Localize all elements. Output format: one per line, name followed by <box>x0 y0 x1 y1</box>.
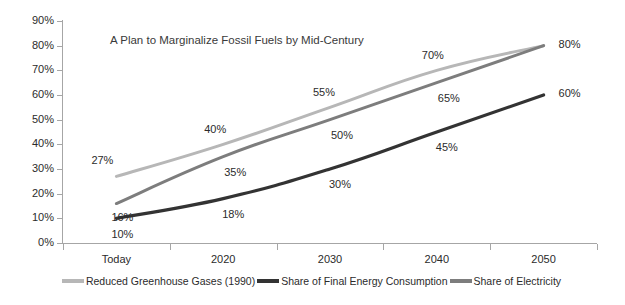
legend-item[interactable]: Reduced Greenhouse Gases (1990) <box>62 275 255 287</box>
legend-item[interactable]: Share of Electricity <box>450 275 562 287</box>
y-axis-tick <box>57 218 63 219</box>
x-axis-tick <box>597 244 598 250</box>
data-point-label: 70% <box>422 49 444 61</box>
y-axis-tick <box>57 120 63 121</box>
y-axis-label: 60% <box>12 89 54 100</box>
chart-title: A Plan to Marginalize Fossil Fuels by Mi… <box>110 33 364 47</box>
data-point-label: 60% <box>559 87 581 99</box>
y-axis-label: 70% <box>12 64 54 75</box>
legend-label: Share of Final Energy Consumption <box>281 275 447 287</box>
chart-legend: Reduced Greenhouse Gases (1990)Share of … <box>0 275 625 287</box>
data-point-label: 16% <box>111 211 133 223</box>
x-axis-tick <box>277 244 278 250</box>
y-axis-tick <box>57 95 63 96</box>
y-axis-tick <box>57 70 63 71</box>
y-axis-label: 0% <box>12 237 54 248</box>
data-point-label: 65% <box>438 92 460 104</box>
data-point-label: 18% <box>222 208 244 220</box>
y-axis-label: 40% <box>12 138 54 149</box>
y-axis-tick <box>57 169 63 170</box>
data-point-label: 55% <box>313 86 335 98</box>
y-axis-line <box>62 20 63 244</box>
y-axis-tick <box>57 194 63 195</box>
y-axis-label: 50% <box>12 114 54 125</box>
x-axis-label: 2020 <box>211 253 235 265</box>
x-axis-label: 2050 <box>531 253 555 265</box>
data-point-label: 30% <box>329 178 351 190</box>
y-axis-label: 20% <box>12 188 54 199</box>
x-axis-label: 2040 <box>425 253 449 265</box>
data-point-label: 27% <box>91 154 113 166</box>
y-axis-tick <box>57 46 63 47</box>
x-axis-tick <box>383 244 384 250</box>
legend-item[interactable]: Share of Final Energy Consumption <box>257 275 447 287</box>
y-axis-label: 10% <box>12 212 54 223</box>
series-line <box>116 46 543 177</box>
line-chart: A Plan to Marginalize Fossil Fuels by Mi… <box>0 0 625 305</box>
legend-swatch-icon <box>257 279 279 283</box>
y-axis-label: 80% <box>12 40 54 51</box>
y-axis-label: 90% <box>12 15 54 26</box>
x-axis-line <box>62 243 597 244</box>
y-axis-tick <box>57 21 63 22</box>
data-point-label: 80% <box>559 38 581 50</box>
data-point-label: 40% <box>204 123 226 135</box>
x-axis-tick <box>63 244 64 250</box>
series-line <box>116 95 543 218</box>
legend-label: Share of Electricity <box>474 275 562 287</box>
x-axis-tick <box>170 244 171 250</box>
data-point-label: 45% <box>436 141 458 153</box>
legend-label: Reduced Greenhouse Gases (1990) <box>86 275 255 287</box>
data-point-label: 10% <box>111 228 133 240</box>
x-axis-label: Today <box>102 253 131 265</box>
data-point-label: 35% <box>224 166 246 178</box>
data-point-label: 50% <box>331 129 353 141</box>
x-axis-tick <box>490 244 491 250</box>
y-axis-label: 30% <box>12 163 54 174</box>
legend-swatch-icon <box>62 279 84 283</box>
y-axis-tick <box>57 144 63 145</box>
legend-swatch-icon <box>450 279 472 283</box>
x-axis-label: 2030 <box>318 253 342 265</box>
